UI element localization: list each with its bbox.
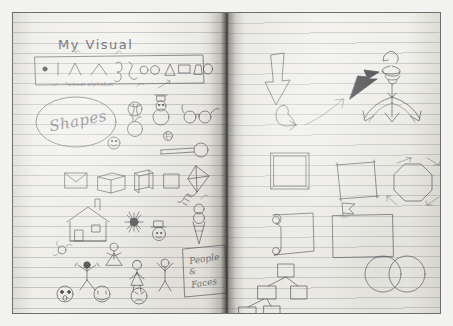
ice-cream-cone-icon [193,204,205,244]
flat-objects-row [65,166,209,205]
overlapping-corner-square [336,160,379,201]
smiley-face-icon [108,137,120,149]
happy-face-icon [94,286,110,302]
three-way-split-arrow [363,97,421,122]
notebook-gutter [209,13,245,313]
double-line-square-frame [271,153,309,189]
dancing-stick-figure [75,262,99,290]
square-icon [164,174,179,188]
arrows-group [265,51,421,130]
starburst-icon [125,212,143,232]
stick-figure-arms-up [106,243,122,265]
cube-icon [98,173,125,193]
solid-filled-arrow [350,70,379,99]
visual-alphabet-box [35,51,213,88]
ampersand-label: & [188,266,196,276]
sad-face-icon [131,288,147,304]
top-hat-face-icon [151,221,166,241]
notebook-frame: My Visual [12,12,441,314]
containers-group [273,203,394,258]
notebook-photo: My Visual [0,0,453,326]
snowman-icon [153,95,169,125]
beach-ball-icon [128,102,142,116]
people-row [53,241,173,292]
girl-stick-figure [130,260,144,292]
scene-objects-row [67,195,208,244]
surprised-face-icon [57,286,73,302]
visual-alphabet-caption: "visual alphabet" [65,81,116,87]
scroll-icon [273,213,315,255]
envelope-icon [65,173,87,188]
magnifier-icon [161,143,208,157]
outline-down-arrow [265,53,290,105]
diagrams-group [239,256,425,313]
round-objects-row [108,95,219,157]
yarn-ball-icon [164,132,173,141]
right-page: Tool Guide [227,13,440,313]
kite-icon [178,166,209,205]
apple-icon [128,115,143,137]
frames-group [271,153,440,205]
curved-hook-arrow [276,105,296,130]
venn-diagram-two-circles [365,256,425,292]
octagon-with-arrow-accents [387,157,440,205]
thin-diagonal-arrow [305,99,344,125]
right-page-ink [227,13,440,313]
flower-icon [53,241,72,256]
stick-figure-cheering [157,259,173,291]
house-icon [67,199,109,241]
left-page: My Visual [13,13,227,313]
box-with-flag-banner [333,203,394,258]
coiled-spiral-arrow [382,51,400,98]
org-chart-hierarchy [239,264,307,313]
book-icon [135,170,153,193]
